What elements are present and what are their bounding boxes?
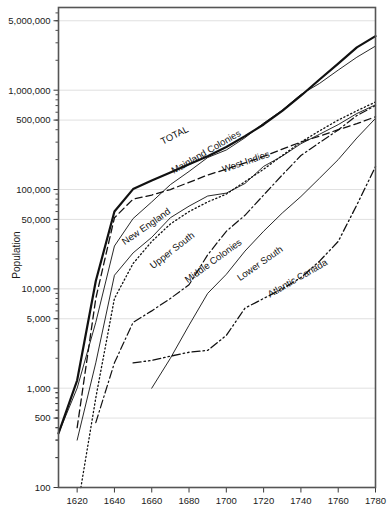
series-label-middle-colonies: Middle Colonies — [183, 236, 244, 285]
x-tick-label: 1700 — [216, 495, 237, 506]
x-tick-label: 1720 — [253, 495, 274, 506]
y-tick-label: 500 — [35, 412, 51, 423]
plot-frame — [59, 8, 376, 488]
y-axis-title: Population — [11, 231, 22, 278]
population-log-chart: TOTALMainland ColoniesWest IndiesNew Eng… — [0, 0, 392, 512]
series-label-atlantic-canada: Atlantic Canada — [266, 256, 330, 299]
series-label-total: TOTAL — [159, 123, 191, 146]
x-tick-label: 1780 — [365, 495, 386, 506]
y-tick-label: 1,000 — [27, 383, 51, 394]
series-label-lower-south: Lower South — [235, 243, 285, 283]
y-tick-label: 5,000,000 — [8, 15, 50, 26]
series-inline-labels: TOTALMainland ColoniesWest IndiesNew Eng… — [120, 123, 330, 299]
x-tick-label: 1760 — [328, 495, 349, 506]
x-axis-tick-labels: 162016401660168017001720174017601780 — [67, 495, 386, 506]
series-line-upper-south — [81, 102, 376, 487]
x-tick-label: 1640 — [104, 495, 125, 506]
series-line-new-england — [77, 105, 375, 440]
y-tick-label: 50,000 — [21, 214, 50, 225]
series-line-middle-colonies — [96, 106, 376, 423]
y-tick-label: 500,000 — [16, 114, 50, 125]
x-tick-label: 1680 — [178, 495, 199, 506]
y-tick-label: 100 — [35, 482, 51, 493]
x-tick-label: 1740 — [290, 495, 311, 506]
chart-container: TOTALMainland ColoniesWest IndiesNew Eng… — [0, 0, 392, 512]
y-tick-label: 100,000 — [16, 184, 50, 195]
x-tick-label: 1620 — [67, 495, 88, 506]
series-line-total — [59, 36, 376, 433]
series-label-west-indies: West Indies — [221, 148, 272, 175]
y-tick-label: 5,000 — [27, 313, 51, 324]
series-label-upper-south: Upper South — [148, 229, 197, 271]
x-tick-label: 1660 — [141, 495, 162, 506]
y-tick-label: 10,000 — [21, 283, 50, 294]
y-tick-label: 1,000,000 — [8, 85, 50, 96]
